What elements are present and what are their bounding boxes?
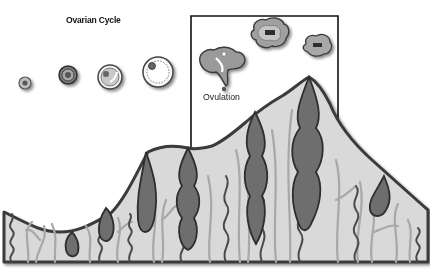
gland-5	[245, 112, 268, 244]
primordial-follicle	[19, 77, 31, 89]
corpus-luteum	[251, 18, 289, 48]
endometrium-tissue	[4, 77, 428, 262]
mature-follicle	[143, 57, 173, 87]
ovulation-label: Ovulation	[203, 91, 240, 102]
ovulating-follicle	[200, 47, 245, 91]
ovarian-cycle-diagram	[0, 0, 430, 270]
secondary-follicle	[98, 65, 122, 89]
corpus-albicans	[303, 34, 331, 56]
diagram-title: Ovarian Cycle	[66, 14, 121, 25]
primary-follicle	[59, 66, 77, 84]
follicles	[19, 57, 173, 89]
